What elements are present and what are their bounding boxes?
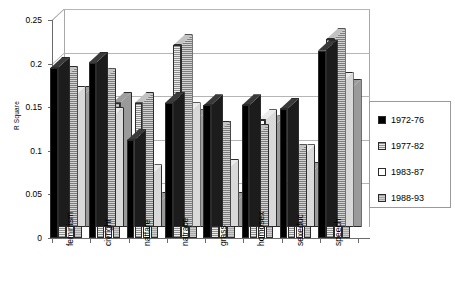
x-tick-mark	[52, 238, 53, 243]
x-axis-line	[52, 238, 370, 239]
bar	[165, 103, 172, 238]
y-tick-label: 0.25	[8, 16, 42, 25]
legend: 1972-76 1977-82 1983-87 1988-93	[369, 101, 451, 208]
x-axis-category-label: natrace	[180, 218, 190, 246]
bar-side-face	[287, 98, 299, 227]
legend-swatch-icon	[378, 168, 386, 176]
x-axis-category-label: natfare	[142, 220, 152, 246]
legend-swatch-icon	[378, 116, 386, 124]
legend-item-1983-87: 1983-87	[378, 166, 424, 178]
y-tick-label: 0.05	[8, 190, 42, 199]
bar-chart: R Square 00.050.10.150.20.25feminismcivr…	[0, 0, 455, 308]
x-axis-category-label: homosex	[256, 212, 266, 247]
legend-label: 1972-76	[391, 116, 424, 125]
axis-depth-tick	[52, 9, 65, 20]
bar-side-face	[58, 57, 70, 227]
x-axis-category-label: grass	[218, 225, 228, 246]
legend-label: 1977-82	[391, 142, 424, 151]
bar-side-face	[134, 129, 146, 227]
x-tick-mark	[129, 238, 130, 243]
bar-side-face	[326, 40, 338, 227]
legend-item-1972-76: 1972-76	[378, 114, 424, 126]
y-tick-label: 0.15	[8, 103, 42, 112]
x-axis-category-label: speech	[333, 219, 343, 246]
bar-side-face	[249, 94, 261, 227]
x-tick-mark	[167, 238, 168, 243]
legend-label: 1983-87	[391, 168, 424, 177]
x-axis-category-label: feminism	[65, 212, 75, 246]
x-tick-mark	[243, 238, 244, 243]
bar	[50, 68, 57, 238]
bar	[89, 63, 96, 238]
x-tick-mark	[90, 238, 91, 243]
y-tick-label: 0.1	[8, 147, 42, 156]
legend-label: 1988-93	[391, 194, 424, 203]
bar-side-face	[173, 92, 185, 227]
x-tick-mark	[320, 238, 321, 243]
gridline	[64, 9, 370, 10]
bar-side-face	[96, 52, 108, 227]
bar	[203, 105, 210, 238]
bar-side-face	[211, 94, 223, 227]
legend-item-1988-93: 1988-93	[378, 192, 424, 204]
x-tick-mark	[358, 238, 359, 243]
bar	[280, 109, 287, 238]
legend-item-1977-82: 1977-82	[378, 140, 424, 152]
y-tick-label: 0.2	[8, 60, 42, 69]
bar	[242, 105, 249, 238]
x-tick-mark	[205, 238, 206, 243]
legend-swatch-icon	[378, 142, 386, 150]
bar	[318, 51, 325, 238]
y-tick-label: 0	[8, 234, 42, 243]
legend-swatch-icon	[378, 194, 386, 202]
x-tick-mark	[282, 238, 283, 243]
y-axis-title: R Square	[13, 86, 20, 146]
x-axis-category-label: civright	[103, 219, 113, 246]
x-axis-category-label: sexeduc	[295, 214, 305, 246]
bar	[127, 140, 134, 238]
